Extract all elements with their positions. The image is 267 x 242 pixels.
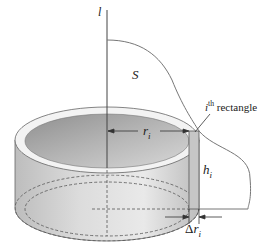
diagram-canvas [0, 0, 267, 242]
thickness-label: Δri [185, 222, 201, 239]
ith-rectangle [189, 131, 199, 209]
rectangle-leader-line [195, 114, 210, 132]
thickness-sub: i [198, 229, 201, 239]
radius-label: ri [143, 124, 151, 141]
axis-label: l [98, 6, 101, 18]
region-label: S [132, 68, 139, 81]
rectangle-label-suffix: th [208, 99, 214, 108]
rectangle-label-word: rectangle [217, 101, 257, 113]
radius-sub: i [148, 131, 151, 141]
height-label: hi [203, 163, 212, 180]
rectangle-label: ith rectangle [205, 100, 257, 113]
shell-method-diagram: l S ith rectangle ri hi Δri [0, 0, 267, 242]
height-sub: i [210, 170, 213, 180]
